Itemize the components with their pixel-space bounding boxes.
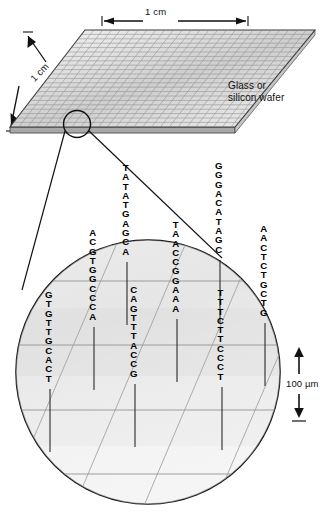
- probe-sequence: ACGTGGCCCA: [89, 228, 96, 321]
- scale-bar-label: 100 µm: [286, 378, 318, 389]
- nucleotide-base: T: [218, 372, 224, 381]
- nucleotide-base: T: [46, 374, 52, 383]
- dimension-top: [102, 16, 248, 26]
- probe-sequence: AACTCTGCTG: [260, 224, 267, 317]
- probe-sequence: CAGTTTACCG: [130, 285, 137, 378]
- microarray-figure: 1 cm 1 cm Glass orsilicon wafer 100 µm G…: [0, 0, 326, 531]
- wafer-caption: Glass orsilicon wafer: [228, 80, 284, 104]
- nucleotide-base: C: [215, 245, 222, 254]
- probe-sequence: TATATGAGCA: [122, 163, 129, 256]
- probe-sequence: TAACCGGAAA: [172, 220, 179, 313]
- nucleotide-base: A: [122, 247, 129, 256]
- probe-sequence: GTGTTGCACT: [45, 290, 52, 383]
- nucleotide-base: G: [260, 308, 267, 317]
- nucleotide-base: G: [130, 369, 137, 378]
- probe-sequence: GGGACATAGC: [215, 161, 222, 254]
- wafer-width-label: 1 cm: [145, 6, 166, 17]
- nucleotide-base: A: [172, 304, 179, 313]
- probe-sequence: TTTCTTCCCT: [217, 288, 224, 381]
- nucleotide-base: A: [89, 312, 96, 321]
